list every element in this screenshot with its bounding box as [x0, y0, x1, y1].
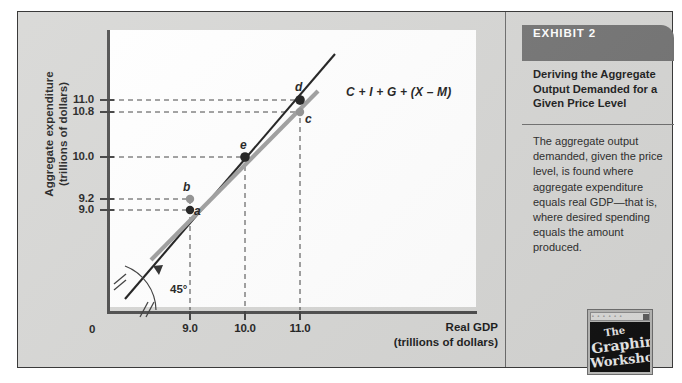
forty-five-degree-line — [125, 54, 335, 299]
thumbnail-window-button-icon — [643, 314, 649, 320]
data-point-label-e: e — [240, 138, 247, 152]
exhibit-panel: EXHIBIT 2 Deriving the Aggregate Output … — [522, 16, 674, 346]
thumbnail-screen: The Graphing Workshop — [590, 322, 650, 372]
chart-graphics — [18, 12, 505, 367]
data-point-label-d: d — [295, 80, 302, 94]
angle-annotation-label: 45° — [170, 283, 187, 295]
data-point-label-a: a — [194, 204, 201, 218]
data-point-label-b: b — [183, 180, 190, 194]
data-point-e — [240, 152, 250, 162]
axis-break-marks — [114, 274, 154, 317]
panel-divider — [505, 12, 506, 367]
chart-region: 11.0 10.8 10.0 9.2 9.0 9.0 10.0 11.0 0 A… — [18, 12, 505, 367]
exhibit-title: Deriving the Aggregate Output Demanded f… — [522, 67, 674, 111]
data-point-label-c: c — [305, 112, 312, 126]
figure-frame: 11.0 10.8 10.0 9.2 9.0 9.0 10.0 11.0 0 A… — [17, 11, 673, 368]
exhibit-divider-rule — [522, 124, 674, 125]
data-point-a — [186, 206, 194, 214]
angle-arc — [125, 266, 156, 310]
exhibit-header-label: EXHIBIT 2 — [533, 27, 596, 39]
thumbnail-toolbar-icons: ▫ ▫ ▫ ▫ ▫ ▫ — [592, 314, 623, 319]
angle-arrowhead — [153, 265, 163, 275]
aggregate-expenditure-line — [151, 91, 318, 260]
exhibit-page: 11.0 10.8 10.0 9.2 9.0 9.0 10.0 11.0 0 A… — [0, 0, 682, 383]
data-point-d — [295, 95, 305, 105]
graphing-workshop-thumbnail[interactable]: ▫ ▫ ▫ ▫ ▫ ▫ The Graphing Workshop — [587, 309, 653, 375]
exhibit-body-text: The aggregate output demanded, given the… — [522, 134, 674, 256]
data-point-c — [296, 108, 304, 116]
data-point-b — [186, 195, 194, 203]
curve-label-aggregate-expenditure: C + I + G + (X – M) — [346, 85, 452, 99]
